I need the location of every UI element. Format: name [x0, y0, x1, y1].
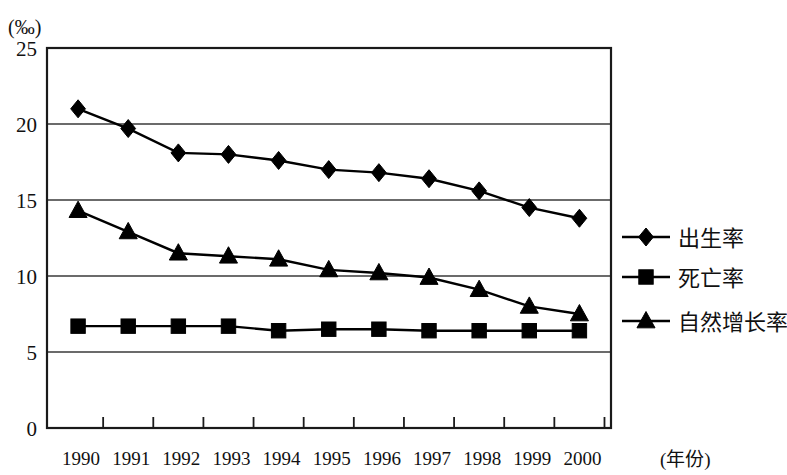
y-tick-label-25: 25	[16, 37, 37, 61]
y-tick-label-0: 0	[27, 417, 38, 441]
data-point-marker	[372, 322, 386, 336]
legend-label: 自然增长率	[678, 310, 787, 335]
y-tick-label-15: 15	[16, 189, 37, 213]
x-tick-label-1993: 1993	[212, 448, 250, 469]
data-point-marker	[372, 164, 387, 182]
data-point-marker	[71, 319, 85, 333]
x-tick-label-1992: 1992	[162, 448, 200, 469]
x-tick-label-1998: 1998	[463, 448, 501, 469]
data-point-marker	[322, 322, 336, 336]
data-point-marker	[271, 151, 286, 169]
x-axis-tick-labels: 1990199119921993199419951996199719981999…	[62, 448, 601, 469]
chart-canvas: 0510152025 19901991199219931994199519961…	[0, 0, 787, 475]
data-point-marker	[321, 161, 336, 179]
data-point-marker	[221, 145, 236, 163]
y-tick-label-5: 5	[27, 341, 38, 365]
data-point-marker	[169, 244, 187, 260]
x-axis-title: (年份)	[660, 449, 711, 471]
data-point-marker	[422, 170, 437, 188]
x-tick-label-1997: 1997	[413, 448, 451, 469]
legend-marker-diamond-icon	[639, 228, 654, 246]
x-axis-tickmarks	[103, 417, 604, 428]
x-tick-label-2000: 2000	[563, 448, 601, 469]
series-3	[69, 201, 588, 321]
data-series	[69, 100, 588, 338]
legend-item-2[interactable]: 死亡率	[622, 266, 744, 291]
x-tick-label-1990: 1990	[62, 448, 100, 469]
data-point-marker	[121, 120, 136, 138]
data-point-marker	[171, 319, 185, 333]
y-axis-tick-labels: 0510152025	[16, 37, 37, 441]
legend-marker-square-icon	[639, 270, 653, 284]
legend-label: 死亡率	[678, 266, 744, 291]
y-tick-label-10: 10	[16, 265, 37, 289]
data-point-marker	[522, 199, 537, 217]
series-2	[71, 319, 587, 338]
data-point-marker	[472, 324, 486, 338]
legend-item-1[interactable]: 出生率	[622, 226, 744, 251]
y-tick-label-20: 20	[16, 113, 37, 137]
chart-legend: 出生率死亡率自然增长率	[622, 226, 787, 335]
x-tick-label-1994: 1994	[263, 448, 302, 469]
data-point-marker	[472, 182, 487, 200]
legend-item-3[interactable]: 自然增长率	[622, 310, 787, 335]
data-point-marker	[572, 324, 586, 338]
x-tick-label-1996: 1996	[363, 448, 401, 469]
data-point-marker	[422, 324, 436, 338]
data-point-marker	[71, 100, 86, 118]
series-1	[71, 100, 587, 227]
data-point-marker	[69, 201, 87, 217]
y-axis-unit-label: (‰)	[8, 16, 41, 39]
legend-label: 出生率	[678, 226, 744, 251]
x-tick-label-1991: 1991	[112, 448, 150, 469]
legend-marker-triangle-icon	[637, 312, 655, 328]
data-point-marker	[221, 319, 235, 333]
population-rate-line-chart: 0510152025 19901991199219931994199519961…	[0, 0, 787, 475]
x-tick-label-1999: 1999	[513, 448, 551, 469]
data-point-marker	[271, 324, 285, 338]
data-point-marker	[119, 222, 137, 238]
data-point-marker	[572, 209, 587, 227]
data-point-marker	[171, 144, 186, 162]
x-tick-label-1995: 1995	[313, 448, 351, 469]
data-point-marker	[522, 324, 536, 338]
data-point-marker	[121, 319, 135, 333]
